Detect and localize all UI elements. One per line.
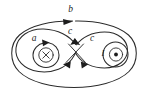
label-loop-c-right: c [90,33,95,43]
label-loop-b: b [68,4,73,14]
ampere-loop-diagram: b c c [0,0,148,97]
loop-a-inner-left [33,40,59,68]
label-current-I: I [101,48,106,58]
right-wire-symbol-group [109,48,122,61]
loop-b-arrowhead [63,19,73,25]
left-wire-symbol-group [39,48,53,62]
figure-container: b c c [0,0,148,97]
label-loop-a: a [32,33,37,43]
dot-icon-center [114,53,118,57]
loop-a-arrowhead [42,40,50,47]
label-loop-c-left: c [68,26,73,36]
